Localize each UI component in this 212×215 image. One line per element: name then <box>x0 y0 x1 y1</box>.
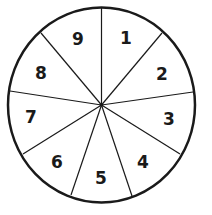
spinner-wheel: 1 2 3 4 5 6 7 8 9 <box>0 0 212 215</box>
section-label-3: 3 <box>163 109 175 129</box>
wheel-center-dot <box>100 103 104 107</box>
section-label-6: 6 <box>51 152 63 172</box>
section-label-2: 2 <box>156 64 168 84</box>
section-label-8: 8 <box>35 63 47 83</box>
section-label-9: 9 <box>72 29 84 49</box>
section-label-4: 4 <box>137 152 149 172</box>
section-label-5: 5 <box>95 168 107 188</box>
section-label-7: 7 <box>25 107 37 127</box>
section-label-1: 1 <box>120 28 132 48</box>
